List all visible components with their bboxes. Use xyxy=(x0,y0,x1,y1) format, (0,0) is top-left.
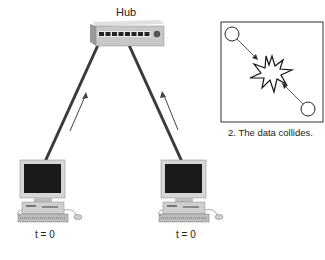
time-label-left: t = 0 xyxy=(35,229,55,240)
computer-right xyxy=(158,160,223,222)
time-label-right: t = 0 xyxy=(176,229,196,240)
inset-caption: 2. The data collides. xyxy=(228,127,313,138)
data-packet-right-icon xyxy=(301,102,315,116)
hub-device xyxy=(90,20,164,46)
cable-right xyxy=(124,34,183,164)
cable-left xyxy=(44,34,103,164)
hub-label: Hub xyxy=(116,6,136,18)
computer-left xyxy=(17,160,82,222)
data-packet-left-icon xyxy=(225,27,239,41)
collision-inset xyxy=(221,22,323,122)
arrow-right-icon xyxy=(160,91,178,130)
